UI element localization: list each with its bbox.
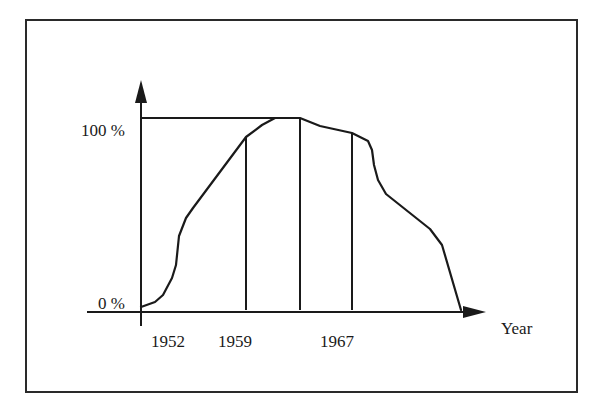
x-axis-arrow-icon [463, 306, 486, 318]
y-label-top: 100 % [81, 122, 125, 139]
x-axis-title: Year [501, 320, 532, 337]
x-tick-1967: 1967 [320, 333, 354, 350]
x-tick-1959: 1959 [218, 333, 252, 350]
y-axis-arrow-icon [135, 80, 147, 103]
y-label-bottom: 0 % [98, 295, 125, 312]
x-tick-1952: 1952 [151, 333, 185, 350]
chart-plot [0, 0, 598, 411]
